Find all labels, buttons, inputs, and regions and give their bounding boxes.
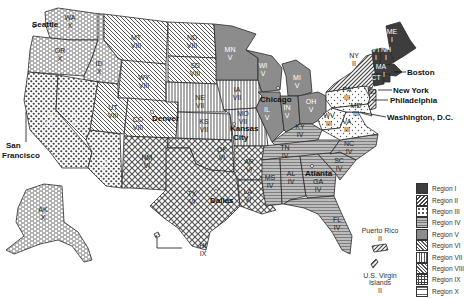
state-hi[interactable] (154, 232, 160, 238)
svg-text:V: V (228, 54, 233, 61)
svg-text:I: I (383, 71, 385, 78)
legend-item-region-vii: Region VII (416, 251, 459, 262)
svg-text:X: X (68, 22, 73, 29)
city-chicago: Chicago (260, 95, 292, 104)
svg-text:V: V (285, 112, 290, 119)
svg-text:OK: OK (217, 146, 227, 153)
svg-text:MT: MT (131, 34, 142, 41)
legend-label: Region VI (432, 242, 461, 249)
svg-text:MO: MO (237, 110, 249, 117)
legend-item-region-ix: Region IX (416, 274, 459, 285)
svg-text:MS: MS (265, 174, 276, 181)
svg-text:IX: IX (100, 164, 107, 171)
svg-text:HI: HI (200, 242, 207, 249)
city-dallas: Dallas (210, 196, 234, 205)
svg-text:AR: AR (244, 158, 254, 165)
svg-text:IX: IX (73, 120, 80, 127)
svg-text:TN: TN (280, 144, 289, 151)
svg-text:II: II (352, 60, 356, 67)
svg-text:VI: VI (245, 196, 252, 203)
svg-text:IV: IV (346, 148, 353, 155)
svg-text:NJ: NJ (368, 88, 377, 95)
svg-text:VIII: VIII (133, 124, 144, 131)
state-vi[interactable] (371, 259, 378, 268)
territory-puerto-rico: Puerto Rico (362, 227, 399, 234)
svg-text:III: III (353, 110, 359, 117)
state-wy[interactable] (118, 60, 166, 102)
legend-label: Region V (432, 231, 459, 238)
svg-text:SC: SC (334, 157, 344, 164)
svg-text:SD: SD (190, 62, 200, 69)
svg-text:MN: MN (225, 46, 236, 53)
city-kansas-city-line2: City (233, 133, 249, 142)
region-i-swatch-icon (416, 183, 428, 194)
svg-text:NM: NM (142, 154, 153, 161)
svg-text:NC: NC (344, 140, 354, 147)
svg-text:VT: VT (372, 46, 382, 53)
svg-text:IL: IL (264, 106, 270, 113)
region-vii-states (166, 80, 268, 146)
svg-text:NE: NE (195, 94, 205, 101)
svg-text:VIII: VIII (108, 112, 119, 119)
city-san-francisco-line1: San (6, 141, 21, 150)
svg-text:X: X (97, 68, 102, 75)
svg-text:WY: WY (138, 74, 150, 81)
state-pr[interactable] (372, 244, 388, 252)
region-v-swatch-icon (416, 229, 428, 240)
svg-text:V: V (261, 70, 266, 77)
svg-text:VIII: VIII (131, 42, 142, 49)
territory-labels: Puerto Rico II U.S. Virgin Islands II (362, 227, 399, 294)
svg-text:MD: MD (351, 102, 362, 109)
svg-text:FL: FL (333, 216, 341, 223)
svg-text:IX: IX (46, 120, 53, 127)
legend-item-region-i: Region I (416, 183, 459, 194)
svg-text:NH: NH (381, 46, 391, 53)
svg-text:VII: VII (233, 94, 242, 101)
city-denver: Denver (152, 114, 179, 123)
svg-text:AL: AL (287, 170, 296, 177)
svg-text:ID: ID (96, 60, 103, 67)
svg-text:I: I (385, 54, 387, 61)
city-washington-dc: Washington, D.C. (387, 113, 453, 122)
svg-text:WI: WI (259, 62, 268, 69)
region-iii-swatch-icon (416, 206, 428, 217)
svg-text:IV: IV (267, 182, 274, 189)
svg-text:III: III (344, 126, 350, 133)
svg-text:KS: KS (199, 118, 209, 125)
svg-text:OH: OH (306, 98, 317, 105)
city-seattle: Seattle (32, 20, 59, 29)
map-legend: Region I Region II Region III Region IV … (416, 183, 459, 297)
legend-label: Region X (432, 288, 459, 295)
region-iv-swatch-icon (416, 217, 428, 228)
svg-text:PA: PA (343, 86, 352, 93)
svg-text:NY: NY (349, 52, 359, 59)
legend-label: Region II (432, 197, 458, 204)
state-fl[interactable] (284, 196, 352, 254)
region-vi-swatch-icon (416, 240, 428, 251)
city-new-york: New York (393, 86, 429, 95)
svg-text:TX: TX (188, 190, 197, 197)
svg-text:AK: AK (38, 206, 48, 213)
svg-text:ME: ME (387, 28, 398, 35)
svg-text:CA: CA (44, 112, 54, 119)
state-ak[interactable] (6, 184, 92, 262)
svg-text:VA: VA (343, 118, 352, 125)
city-kansas-city-line1: Kansas (230, 124, 259, 133)
svg-text:WV: WV (323, 112, 335, 119)
svg-text:X: X (41, 214, 46, 221)
svg-text:MI: MI (293, 74, 301, 81)
svg-text:VI: VI (189, 198, 196, 205)
svg-text:V: V (265, 114, 270, 121)
legend-item-region-x: Region X (416, 286, 459, 297)
city-boston: Boston (407, 68, 435, 77)
svg-text:VIII: VIII (187, 42, 198, 49)
legend-item-region-iv: Region IV (416, 217, 459, 228)
legend-item-region-viii: Region VIII (416, 263, 459, 274)
svg-text:I: I (391, 36, 393, 43)
svg-text:UT: UT (108, 104, 118, 111)
svg-text:V: V (309, 106, 314, 113)
legend-item-region-ii: Region II (416, 194, 459, 205)
svg-text:IA: IA (234, 86, 241, 93)
svg-text:AZ: AZ (99, 156, 109, 163)
